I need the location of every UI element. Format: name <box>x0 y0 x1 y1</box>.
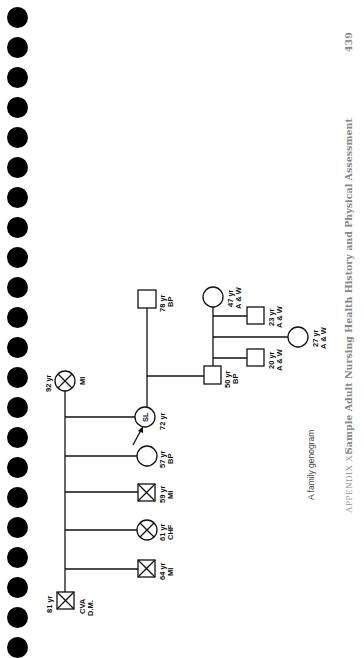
running-title: Sample Adult Nursing Health History and … <box>343 118 354 454</box>
aunt-57-node <box>137 446 157 466</box>
grandfather-condition-2: D.M. <box>86 600 95 616</box>
grandchild-20-condition: A & W <box>275 348 284 371</box>
aunt-57-condition: BP <box>166 454 175 464</box>
uncle-64-condition: MI <box>166 568 175 576</box>
grandchild-23-node <box>247 307 264 324</box>
child-50-condition: BP <box>231 374 240 384</box>
grandchild-20-node <box>247 349 264 366</box>
grandfather-node <box>57 592 74 609</box>
child-spouse-47-condition: A & W <box>234 286 243 309</box>
aunt-61-condition: CHF <box>166 524 175 540</box>
uncle-59-condition: MI <box>166 491 175 499</box>
uncle-64-node <box>138 560 155 577</box>
child-50-node <box>204 366 221 384</box>
grandchild-23-condition: A & W <box>275 305 284 328</box>
appendix-label: APPENDIX XI <box>344 451 354 513</box>
grandmother-node <box>55 371 75 391</box>
grandmother-condition: MI <box>78 377 87 385</box>
sl-initials: SL <box>141 412 150 422</box>
spouse-78-condition: BP <box>166 297 175 307</box>
grandchild-27-condition: A & W <box>319 326 328 349</box>
page-number: 439 <box>343 32 354 52</box>
aunt-61-node <box>137 520 157 540</box>
spouse-78-node <box>138 290 156 308</box>
sl-age: 72 yr <box>158 412 167 430</box>
child-spouse-47-node <box>203 287 223 307</box>
grandfather-age: 81 yr <box>45 595 54 613</box>
grandchild-27-node <box>288 327 308 347</box>
uncle-59-node <box>138 484 155 501</box>
figure-caption: A family genogram <box>306 430 316 500</box>
grandmother-age: 92 yr <box>44 374 53 392</box>
